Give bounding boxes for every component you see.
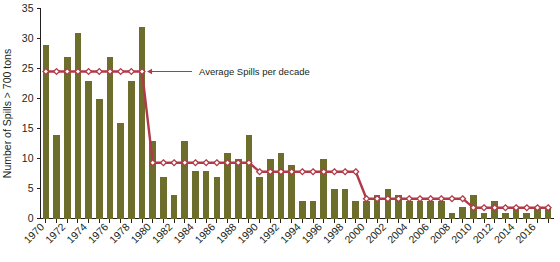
average-marker-1984	[193, 160, 199, 166]
x-tick-label-1976: 1976	[85, 220, 110, 245]
y-tick-label: 10	[22, 152, 34, 164]
x-tick-label-1972: 1972	[43, 220, 68, 245]
bar-1997	[331, 189, 338, 219]
x-tick-label-2016: 2016	[513, 220, 538, 245]
bar-1989	[246, 135, 253, 219]
bar-1982	[171, 195, 178, 219]
annotation-arrow-icon	[147, 69, 152, 75]
x-tick-label-2010: 2010	[449, 220, 474, 245]
bar-1971	[53, 135, 60, 219]
bar-2007	[438, 201, 445, 219]
x-tick-label-1992: 1992	[256, 220, 281, 245]
bar-1988	[235, 159, 242, 219]
bar-1983	[181, 141, 188, 219]
bar-2013	[502, 213, 509, 219]
average-marker-2008	[449, 196, 455, 202]
x-tick-label-2008: 2008	[427, 220, 452, 245]
bar-1992	[278, 153, 285, 219]
y-tick-label: 30	[22, 32, 34, 44]
y-tick-label: 35	[22, 2, 34, 14]
bar-2009	[459, 207, 466, 219]
x-tick-label-1982: 1982	[150, 220, 175, 245]
x-tick-label-1974: 1974	[64, 220, 89, 245]
bar-1991	[267, 159, 274, 219]
y-tick-label: 25	[22, 62, 34, 74]
bar-1974	[85, 81, 92, 219]
bar-1999	[352, 201, 359, 219]
x-tick-label-2014: 2014	[492, 220, 517, 245]
average-marker-2011	[481, 205, 487, 211]
x-tick-label-2004: 2004	[385, 220, 410, 245]
bar-2004	[406, 201, 413, 219]
bar-1973	[75, 33, 82, 219]
bar-2006	[427, 201, 434, 219]
y-axis-ticks-group: 05101520253035	[22, 2, 41, 224]
bar-1979	[139, 27, 146, 219]
bar-2008	[449, 213, 456, 219]
average-marker-1981	[161, 160, 167, 166]
oil-spills-chart: Number of Spills > 700 tons 051015202530…	[0, 0, 560, 262]
x-tick-label-1996: 1996	[299, 220, 324, 245]
average-marker-2013	[503, 205, 509, 211]
y-tick-label: 20	[22, 92, 34, 104]
bar-1995	[310, 201, 317, 219]
x-tick-label-2006: 2006	[406, 220, 431, 245]
average-marker-1998	[342, 169, 348, 175]
x-tick-label-2012: 2012	[470, 220, 495, 245]
bar-2011	[481, 213, 488, 219]
bar-1972	[64, 57, 71, 219]
average-marker-1971	[54, 69, 60, 75]
average-marker-1982	[171, 160, 177, 166]
y-tick-label: 0	[28, 212, 34, 224]
average-marker-1995	[310, 169, 316, 175]
bar-1977	[117, 123, 124, 219]
x-tick-label-2000: 2000	[342, 220, 367, 245]
x-tick-label-2002: 2002	[363, 220, 388, 245]
x-tick-label-1998: 1998	[321, 220, 346, 245]
bars-group	[43, 27, 552, 219]
annotation-label: Average Spills per decade	[199, 66, 310, 77]
average-marker-1997	[332, 169, 338, 175]
annotation-group: Average Spills per decade	[147, 66, 310, 77]
bar-1976	[107, 57, 114, 219]
x-axis-ticks-group: 1970197219741976197819801982198419861988…	[21, 219, 548, 246]
y-axis-title: Number of Spills > 700 tons	[1, 49, 13, 178]
x-tick-label-1988: 1988	[214, 220, 239, 245]
bar-1996	[320, 159, 327, 219]
bar-2000	[363, 201, 370, 219]
x-tick-label-1994: 1994	[278, 220, 303, 245]
y-axis-title-group: Number of Spills > 700 tons	[1, 49, 13, 178]
bar-2002	[385, 189, 392, 219]
bar-2015	[523, 213, 530, 219]
x-tick-label-1980: 1980	[128, 220, 153, 245]
average-marker-1986	[214, 160, 220, 166]
bar-1998	[342, 189, 349, 219]
bar-1975	[96, 99, 103, 219]
x-tick-label-1986: 1986	[192, 220, 217, 245]
bar-2005	[417, 201, 424, 219]
average-marker-1985	[203, 160, 209, 166]
bar-1990	[256, 177, 263, 219]
y-tick-label: 15	[22, 122, 34, 134]
bar-1984	[192, 171, 199, 219]
bar-1978	[128, 81, 135, 219]
bar-1994	[299, 201, 306, 219]
average-marker-1978	[128, 69, 134, 75]
bar-1985	[203, 171, 210, 219]
bar-1986	[214, 177, 221, 219]
average-marker-1975	[96, 69, 102, 75]
average-marker-1994	[299, 169, 305, 175]
x-tick-label-1984: 1984	[171, 220, 196, 245]
x-tick-label-1990: 1990	[235, 220, 260, 245]
average-marker-2015	[524, 205, 530, 211]
bar-1981	[160, 177, 167, 219]
chart-canvas: Number of Spills > 700 tons 051015202530…	[0, 0, 560, 262]
x-tick-label-1978: 1978	[107, 220, 132, 245]
x-tick-label-1970: 1970	[21, 220, 46, 245]
y-tick-label: 5	[28, 182, 34, 194]
average-marker-1974	[86, 69, 92, 75]
average-marker-1977	[118, 69, 124, 75]
